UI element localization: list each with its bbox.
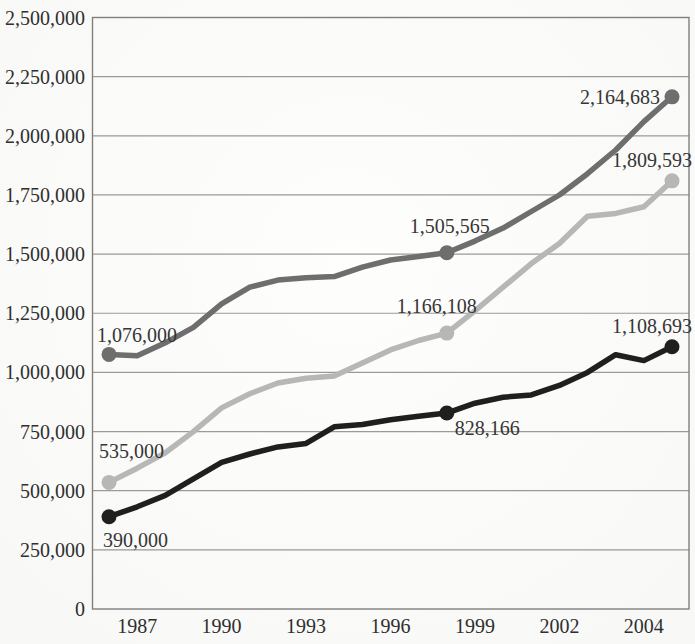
x-axis-tick-label: 1999 bbox=[455, 615, 495, 637]
x-axis-tick-label: 1990 bbox=[202, 615, 242, 637]
y-axis-tick-label: 2,000,000 bbox=[5, 125, 85, 147]
y-axis-tick-label: 1,500,000 bbox=[5, 243, 85, 265]
data-point-marker-black bbox=[439, 406, 454, 421]
data-point-marker-light-gray bbox=[439, 326, 454, 341]
chart-page: 2,500,0002,250,0002,000,0001,750,0001,50… bbox=[0, 0, 695, 644]
y-axis-tick-label: 750,000 bbox=[20, 421, 85, 443]
data-point-label-light-gray: 1,809,593 bbox=[612, 149, 692, 171]
y-axis-tick-label: 2,250,000 bbox=[5, 66, 85, 88]
y-axis-tick-label: 1,250,000 bbox=[5, 302, 85, 324]
data-point-label-light-gray: 1,166,108 bbox=[397, 295, 477, 317]
y-axis-tick-label: 1,750,000 bbox=[5, 184, 85, 206]
y-axis-tick-label: 250,000 bbox=[20, 539, 85, 561]
data-point-label-black: 390,000 bbox=[103, 529, 168, 551]
x-axis-tick-label: 1987 bbox=[117, 615, 157, 637]
y-axis-tick-label: 2,500,000 bbox=[5, 7, 85, 29]
data-point-label-dark-gray: 1,076,000 bbox=[97, 324, 177, 346]
data-point-marker-light-gray bbox=[665, 173, 680, 188]
data-point-marker-light-gray bbox=[102, 475, 117, 490]
data-point-marker-black bbox=[665, 339, 680, 354]
x-axis-tick-label: 1996 bbox=[371, 615, 411, 637]
series-line-light-gray bbox=[109, 181, 672, 483]
x-axis-tick-label: 2002 bbox=[539, 615, 579, 637]
data-point-marker-dark-gray bbox=[439, 245, 454, 260]
y-axis-tick-label: 500,000 bbox=[20, 480, 85, 502]
data-point-label-light-gray: 535,000 bbox=[99, 440, 164, 462]
x-axis-tick-label: 2004 bbox=[624, 615, 664, 637]
y-axis-tick-label: 1,000,000 bbox=[5, 361, 85, 383]
data-point-label-black: 1,108,693 bbox=[612, 315, 692, 337]
data-point-marker-dark-gray bbox=[665, 89, 680, 104]
data-point-label-dark-gray: 2,164,683 bbox=[580, 86, 660, 108]
data-point-label-dark-gray: 1,505,565 bbox=[410, 215, 490, 237]
y-axis-tick-label: 0 bbox=[75, 598, 85, 620]
data-point-label-black: 828,166 bbox=[455, 417, 520, 439]
x-axis-tick-label: 1993 bbox=[286, 615, 326, 637]
line-chart: 2,500,0002,250,0002,000,0001,750,0001,50… bbox=[0, 0, 695, 644]
data-point-marker-dark-gray bbox=[102, 347, 117, 362]
data-point-marker-black bbox=[102, 509, 117, 524]
